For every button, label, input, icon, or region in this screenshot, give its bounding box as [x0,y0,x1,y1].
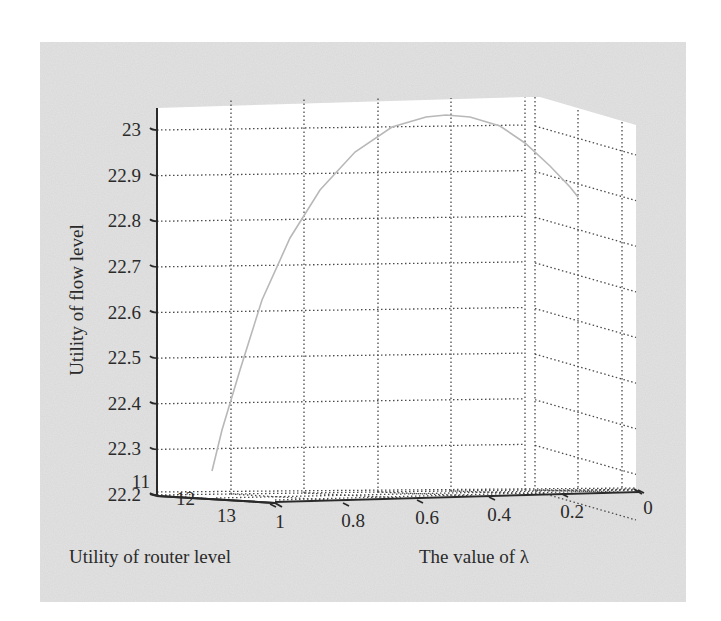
z-tick-label: 22.5 [108,347,141,368]
z-tick-label: 22.4 [108,393,142,414]
x-tick-label: 0.8 [341,510,365,531]
z-tick-label: 23 [122,119,141,140]
plot-area [157,97,640,503]
x-tick-label: 1 [275,511,285,532]
z-axis-title: Utility of flow level [66,224,87,375]
y-tick-label: 12 [176,488,195,509]
x-tick-label: 0.6 [415,507,439,528]
x-tick-label: 0.2 [560,501,584,522]
y-axis-title: Utility of router level [69,546,231,567]
x-axis-title: The value of λ [419,546,530,567]
y-tick-label: 13 [217,505,236,526]
z-tick-label: 22.9 [108,165,141,186]
3d-line-chart: 2322.922.822.722.622.522.422.322.2 11121… [0,0,721,621]
z-tick-label: 22.7 [108,256,141,277]
x-tick-label: 0.4 [487,504,511,525]
z-tick-label: 22.8 [108,210,141,231]
y-tick-label: 11 [132,471,150,492]
z-tick-label: 22.6 [108,302,141,323]
x-tick-label: 0 [643,497,653,518]
z-tick-label: 22.3 [108,438,141,459]
